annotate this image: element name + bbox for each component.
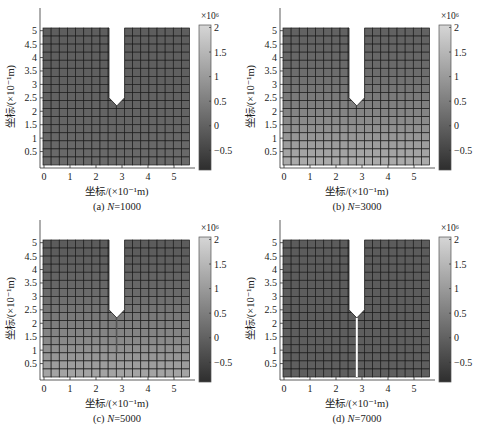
- x-tick-label: 5: [412, 383, 417, 394]
- y-tick-label: 3: [32, 79, 37, 90]
- y-tick-label: 5: [32, 25, 37, 36]
- y-tick-label: 4.5: [25, 251, 38, 262]
- colorbar: −0.500.511.52×10⁶: [439, 223, 472, 382]
- y-tick-label: 1: [272, 133, 277, 144]
- figure-canvas: 0123450.511.522.533.544.55坐标/(×10⁻¹m)坐标/…: [0, 0, 477, 435]
- colorbar-tick-label: −0.5: [214, 145, 232, 156]
- colorbar-tick-label: 1.5: [214, 47, 227, 58]
- x-tick-label: 5: [172, 171, 177, 182]
- colorbar-tick-label: −0.5: [454, 357, 472, 368]
- x-tick-label: 3: [360, 383, 365, 394]
- y-tick-label: 2: [272, 106, 277, 117]
- x-axis-label: 坐标/(×10⁻¹m): [85, 186, 149, 198]
- y-axis-label: 坐标/(×10⁻¹m): [5, 276, 17, 340]
- colorbar-tick-label: 1: [214, 283, 219, 294]
- figure: 0123450.511.522.533.544.55坐标/(×10⁻¹m)坐标/…: [0, 0, 477, 435]
- colorbar: −0.500.511.52×10⁶: [439, 11, 472, 170]
- y-tick-label: 4.5: [265, 39, 278, 50]
- y-tick-label: 1: [272, 345, 277, 356]
- x-tick-label: 2: [94, 383, 99, 394]
- colorbar-tick-label: 0.5: [454, 308, 467, 319]
- x-tick-label: 1: [308, 383, 313, 394]
- y-tick-label: 1.5: [25, 331, 38, 342]
- y-tick-label: 3: [32, 291, 37, 302]
- y-tick-label: 4: [32, 264, 37, 275]
- y-axis-label: 坐标/(×10⁻¹m): [245, 64, 257, 128]
- notch: [349, 27, 365, 106]
- colorbar-exponent: ×10⁶: [441, 11, 459, 21]
- y-tick-label: 2: [32, 106, 37, 117]
- colorbar-tick-label: −0.5: [214, 357, 232, 368]
- y-tick-label: 2: [272, 318, 277, 329]
- y-tick-label: 2.5: [25, 92, 38, 103]
- caption-a: (a) N=1000: [93, 201, 141, 213]
- x-tick-label: 0: [282, 171, 287, 182]
- colorbar-exponent: ×10⁶: [201, 11, 219, 21]
- colorbar-exponent: ×10⁶: [441, 223, 459, 233]
- x-tick-label: 2: [334, 383, 339, 394]
- x-tick-label: 1: [68, 171, 73, 182]
- colorbar-tick-label: −0.5: [454, 145, 472, 156]
- caption-b: (b) N=3000: [333, 201, 382, 213]
- y-tick-label: 4: [272, 264, 277, 275]
- colorbar-tick-label: 1: [214, 71, 219, 82]
- y-tick-label: 3: [272, 79, 277, 90]
- y-tick-label: 4.5: [265, 251, 278, 262]
- y-tick-label: 1.5: [25, 119, 38, 130]
- x-tick-label: 4: [146, 383, 151, 394]
- colorbar-exponent: ×10⁶: [201, 223, 219, 233]
- panel-b: 0123450.511.522.533.544.55坐标/(×10⁻¹m)坐标/…: [245, 8, 472, 213]
- x-tick-label: 3: [120, 383, 125, 394]
- x-tick-label: 1: [308, 171, 313, 182]
- colorbar-tick-label: 0: [454, 332, 459, 343]
- y-tick-label: 3.5: [265, 277, 278, 288]
- y-tick-label: 5: [272, 25, 277, 36]
- y-tick-label: 5: [32, 237, 37, 248]
- colorbar-tick-label: 2: [214, 22, 219, 33]
- x-tick-label: 3: [120, 171, 125, 182]
- y-tick-label: 2.5: [265, 304, 278, 315]
- colorbar-tick-label: 1: [454, 71, 459, 82]
- y-tick-label: 5: [272, 237, 277, 248]
- panel-d: 0123450.511.522.533.544.55坐标/(×10⁻¹m)坐标/…: [245, 220, 472, 425]
- caption-d: (d) N=7000: [333, 413, 382, 425]
- x-tick-label: 1: [68, 383, 73, 394]
- x-tick-label: 4: [386, 171, 391, 182]
- colorbar-tick-label: 0: [214, 120, 219, 131]
- x-tick-label: 5: [172, 383, 177, 394]
- x-axis-label: 坐标/(×10⁻¹m): [325, 186, 389, 198]
- y-tick-label: 1: [32, 345, 37, 356]
- y-tick-label: 0.5: [265, 358, 278, 369]
- x-tick-label: 0: [42, 383, 47, 394]
- colorbar-tick-label: 2: [454, 22, 459, 33]
- y-tick-label: 0.5: [25, 358, 38, 369]
- notch: [109, 27, 125, 106]
- colorbar-tick-label: 1.5: [214, 259, 227, 270]
- y-tick-label: 1: [32, 133, 37, 144]
- colorbar-tick-label: 2: [454, 234, 459, 245]
- y-tick-label: 2.5: [25, 304, 38, 315]
- notch: [109, 239, 125, 318]
- y-tick-label: 4.5: [25, 39, 38, 50]
- y-tick-label: 4: [32, 52, 37, 63]
- colorbar: −0.500.511.52×10⁶: [199, 223, 232, 382]
- x-axis-label: 坐标/(×10⁻¹m): [325, 398, 389, 410]
- colorbar-tick-label: 1.5: [454, 259, 467, 270]
- y-axis-label: 坐标/(×10⁻¹m): [245, 276, 257, 340]
- x-tick-label: 0: [282, 383, 287, 394]
- y-tick-label: 4: [272, 52, 277, 63]
- x-tick-label: 4: [386, 383, 391, 394]
- colorbar-tick-label: 0.5: [454, 96, 467, 107]
- x-tick-label: 3: [360, 171, 365, 182]
- colorbar-tick-label: 1.5: [454, 47, 467, 58]
- colorbar-tick-label: 0.5: [214, 96, 227, 107]
- colorbar-tick-label: 2: [214, 234, 219, 245]
- x-tick-label: 2: [94, 171, 99, 182]
- panel-a: 0123450.511.522.533.544.55坐标/(×10⁻¹m)坐标/…: [5, 8, 232, 213]
- colorbar-tick-label: 1: [454, 283, 459, 294]
- colorbar: −0.500.511.52×10⁶: [199, 11, 232, 170]
- y-tick-label: 0.5: [25, 146, 38, 157]
- notch: [349, 239, 365, 318]
- x-tick-label: 5: [412, 171, 417, 182]
- y-tick-label: 2.5: [265, 92, 278, 103]
